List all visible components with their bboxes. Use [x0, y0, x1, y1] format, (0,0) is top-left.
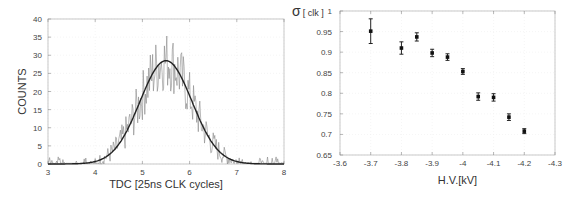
data-point	[369, 19, 373, 44]
x-tick-label: -3.7	[364, 159, 378, 168]
y-tick-label: 0.8	[321, 89, 333, 98]
y-tick-label: 10	[33, 124, 42, 133]
x-tick-label: -4.1	[487, 159, 501, 168]
marker	[369, 29, 373, 33]
y-tick-label: 0.75	[316, 110, 332, 119]
x-axis-label: TDC [25ns CLK cycles]	[109, 178, 223, 190]
x-tick-label: -4.3	[548, 159, 562, 168]
data-point	[461, 69, 465, 75]
y-axis-label: σ[ clk ]	[292, 3, 324, 19]
sigma-vs-hv-chart: -3.6-3.7-3.8-3.9-4-4.1-4.2-4.30.650.70.7…	[290, 0, 575, 197]
x-tick-label: 3	[46, 168, 51, 177]
y-tick-label: 20	[33, 88, 42, 97]
data-point	[492, 94, 496, 101]
y-tick-label: 0.85	[316, 69, 332, 78]
y-tick-label: 5	[38, 142, 43, 151]
data-point	[522, 129, 526, 134]
y-tick-label: 1	[328, 7, 333, 16]
data-point	[446, 54, 450, 61]
x-tick-label: -4	[459, 159, 467, 168]
data-point	[430, 49, 434, 56]
y-axis-label: COUNTS	[16, 68, 28, 114]
y-tick-label: 25	[33, 69, 42, 78]
tdc-histogram-plot: 3456780510152025303540TDC [25ns CLK cycl…	[0, 0, 290, 197]
y-tick-label: 0.9	[321, 48, 333, 57]
x-tick-label: -3.8	[395, 159, 409, 168]
data-point	[415, 33, 419, 41]
marker	[415, 35, 419, 39]
marker	[461, 70, 465, 74]
marker	[446, 55, 450, 59]
sigma-vs-hv-plot: -3.6-3.7-3.8-3.9-4-4.1-4.2-4.30.650.70.7…	[290, 0, 575, 197]
marker	[476, 95, 480, 99]
y-tick-label: 35	[33, 33, 42, 42]
data-point	[476, 93, 480, 100]
y-tick-label: 0.7	[321, 130, 333, 139]
x-axis-label: H.V.[kV]	[438, 174, 477, 186]
data-point	[507, 114, 511, 121]
y-tick-label: 0.65	[316, 151, 332, 160]
y-tick-label: 15	[33, 106, 42, 115]
x-tick-label: -3.6	[333, 159, 347, 168]
y-tick-label: 30	[33, 51, 42, 60]
y-tick-label: 40	[33, 15, 42, 24]
x-tick-label: 6	[187, 168, 192, 177]
x-tick-label: 4	[93, 168, 98, 177]
x-tick-label: 5	[140, 168, 145, 177]
y-tick-label: 0.95	[316, 28, 332, 37]
gaussian-fit-curve	[48, 61, 284, 164]
x-tick-label: 7	[235, 168, 240, 177]
histogram-series	[48, 36, 284, 164]
tdc-histogram-chart: 3456780510152025303540TDC [25ns CLK cycl…	[0, 0, 290, 197]
x-tick-label: -4.2	[517, 159, 531, 168]
marker	[492, 96, 496, 100]
x-tick-label: 8	[282, 168, 287, 177]
marker	[430, 51, 434, 55]
marker	[400, 46, 404, 50]
x-tick-label: -3.9	[425, 159, 439, 168]
marker	[522, 129, 526, 133]
y-tick-label: 0	[38, 160, 43, 169]
marker	[507, 115, 511, 119]
